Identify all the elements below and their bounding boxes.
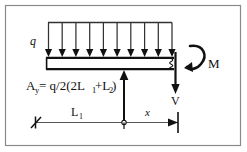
beam-group [46, 58, 174, 70]
moment-label-m: M [208, 56, 220, 71]
load-label-q: q [30, 34, 36, 48]
load-arrow-heads [45, 49, 176, 57]
dimension-labels: L 1 x [71, 105, 150, 121]
diagram-canvas: q M V A y = q/2(2L 1 +L 2 ) L 1 x [0, 0, 247, 152]
moment-arrow-head [184, 62, 193, 72]
shear-label-v: V [171, 94, 180, 108]
beam-diagram-figure: q M V A y = q/2(2L 1 +L 2 ) L 1 x [0, 0, 247, 152]
reaction-eq-close: ) [112, 78, 116, 93]
beam-body [46, 58, 174, 70]
reaction-equation: A y = q/2(2L 1 +L 2 ) [26, 78, 116, 95]
load-arrow-shafts [49, 23, 173, 51]
dim-label-x: x [144, 106, 150, 118]
dimension-right-arrowhead [168, 119, 178, 127]
reaction-arrow-head [120, 70, 129, 80]
dimension-line-group [31, 102, 178, 133]
reaction-force-group [120, 70, 129, 122]
dim-label-L-sub: 1 [79, 112, 83, 121]
shear-arrow-head [171, 84, 179, 94]
distributed-load-group [45, 23, 176, 58]
reaction-eq-body: = q/2(2L [39, 78, 85, 93]
dim-label-L: L [71, 105, 78, 119]
moment-arrow-group [184, 46, 204, 72]
